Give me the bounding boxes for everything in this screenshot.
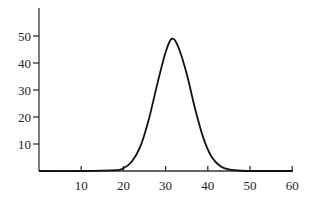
series-curve: [39, 39, 292, 172]
x-tick-label: 40: [201, 178, 214, 193]
y-tick-label: 30: [18, 83, 31, 98]
y-tick-label: 10: [18, 137, 31, 152]
x-tick-label: 20: [117, 178, 130, 193]
x-tick-label: 60: [286, 178, 299, 193]
x-tick-label: 10: [75, 178, 88, 193]
chart: 102030405060 1020304050: [0, 0, 310, 203]
x-tick-label: 30: [159, 178, 172, 193]
x-tick-label: 50: [244, 178, 257, 193]
y-tick-label: 40: [18, 56, 31, 71]
y-tick-label: 20: [18, 110, 31, 125]
y-tick-label: 50: [18, 29, 31, 44]
